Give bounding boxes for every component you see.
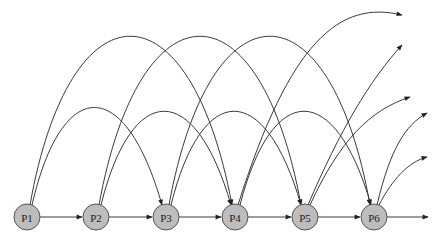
short-arcs bbox=[32, 97, 427, 205]
node-label: P2 bbox=[90, 212, 102, 224]
node-p2: P2 bbox=[83, 204, 109, 230]
node-p5: P5 bbox=[292, 204, 318, 230]
edge-p4-out bbox=[238, 12, 402, 205]
node-p6: P6 bbox=[361, 204, 387, 230]
pipeline-diagram: P1 P2 P3 P4 P5 P6 bbox=[0, 0, 436, 244]
node-p1: P1 bbox=[14, 204, 40, 230]
node-label: P6 bbox=[368, 212, 380, 224]
node-label: P4 bbox=[229, 212, 241, 224]
edge-p2-p5 bbox=[99, 36, 301, 205]
node-label: P1 bbox=[21, 212, 33, 224]
node-p4: P4 bbox=[222, 204, 248, 230]
edge-p4-p6 bbox=[240, 111, 371, 205]
edge-p1-p4 bbox=[30, 36, 232, 205]
edge-p3-p5 bbox=[171, 111, 301, 205]
edge-p2-p4 bbox=[101, 111, 231, 205]
node-p3: P3 bbox=[153, 204, 179, 230]
node-label: P3 bbox=[160, 212, 172, 224]
node-label: P5 bbox=[299, 212, 311, 224]
edge-p6-out-3 bbox=[379, 157, 427, 205]
edge-p6-out-2 bbox=[377, 113, 427, 205]
